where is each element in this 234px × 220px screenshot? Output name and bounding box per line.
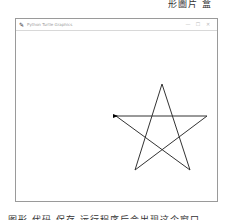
- turtle-window: ✎ Python Turtle Graphics — ☐ ✕: [15, 18, 218, 202]
- maximize-button[interactable]: ☐: [193, 20, 203, 29]
- window-controls: — ☐ ✕: [183, 20, 213, 29]
- minimize-button[interactable]: —: [183, 20, 193, 29]
- window-title: Python Turtle Graphics: [27, 22, 183, 27]
- star-drawing: [16, 30, 217, 202]
- turtle-canvas[interactable]: [16, 30, 217, 201]
- star-shape: [116, 84, 207, 170]
- cropped-top-text: 形圖片 盒: [168, 0, 212, 10]
- feather-icon: ✎: [19, 21, 25, 28]
- close-button[interactable]: ✕: [203, 20, 213, 29]
- cropped-bottom-text: 图形 代码 保存 运行程序后会出现这个窗口: [8, 213, 200, 220]
